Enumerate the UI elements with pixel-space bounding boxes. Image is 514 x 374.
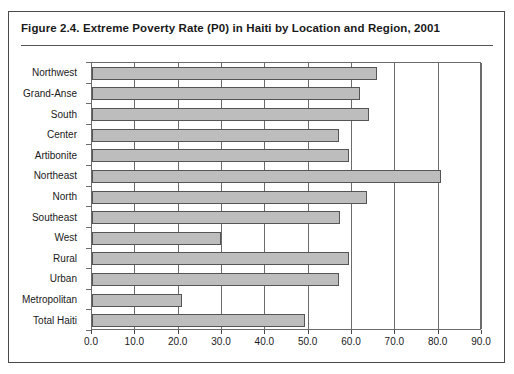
bar-row [92, 67, 482, 80]
bar-grand-anse [92, 87, 360, 100]
bar-row [92, 87, 482, 100]
x-axis-label-10-0: 10.0 [125, 336, 144, 347]
bar-metropolitan [92, 294, 182, 307]
y-axis-label-grand-anse: Grand-Anse [23, 87, 77, 98]
x-axis-tick [351, 330, 352, 334]
bar-row [92, 191, 482, 204]
y-axis-labels: NorthwestGrand-AnseSouthCenterArtibonite… [0, 62, 85, 330]
bar-northeast [92, 170, 441, 183]
x-axis-label-40-0: 40.0 [255, 336, 274, 347]
x-axis-tick [394, 330, 395, 334]
bar-row [92, 170, 482, 183]
y-axis-label-south: South [51, 108, 77, 119]
bar-total-haiti [92, 314, 305, 327]
bar-row [92, 314, 482, 327]
x-axis-tick [438, 330, 439, 334]
bar-row [92, 108, 482, 121]
y-axis-label-west: West [54, 232, 77, 243]
figure-title: Figure 2.4. Extreme Poverty Rate (P0) in… [21, 22, 491, 34]
y-axis-label-total-haiti: Total Haiti [33, 314, 77, 325]
y-axis-label-rural: Rural [53, 252, 77, 263]
bar-southeast [92, 211, 340, 224]
bar-row [92, 273, 482, 286]
bar-northwest [92, 67, 377, 80]
bar-row [92, 149, 482, 162]
bar-rural [92, 252, 349, 265]
x-axis-label-70-0: 70.0 [385, 336, 404, 347]
bar-row [92, 232, 482, 245]
y-axis-label-north: North [53, 191, 77, 202]
x-axis-tick [308, 330, 309, 334]
x-axis-label-0-0: 0.0 [84, 336, 98, 347]
y-axis-label-center: Center [47, 129, 77, 140]
x-axis-tick [134, 330, 135, 334]
bar-center [92, 129, 339, 142]
bar-row [92, 129, 482, 142]
bar-west [92, 232, 221, 245]
y-axis-label-urban: Urban [50, 273, 77, 284]
x-axis-tick [91, 330, 92, 334]
x-axis-tick [221, 330, 222, 334]
y-axis-label-northeast: Northeast [34, 170, 77, 181]
bars-layer [92, 63, 480, 329]
bar-row [92, 294, 482, 307]
plot-area [91, 62, 481, 330]
x-axis-label-50-0: 50.0 [298, 336, 317, 347]
x-axis-label-20-0: 20.0 [168, 336, 187, 347]
x-axis-tick [481, 330, 482, 334]
y-axis-label-metropolitan: Metropolitan [22, 294, 77, 305]
x-axis-label-80-0: 80.0 [428, 336, 447, 347]
x-axis-label-60-0: 60.0 [341, 336, 360, 347]
title-underline [21, 45, 493, 46]
y-axis-label-artibonite: Artibonite [35, 149, 77, 160]
bar-row [92, 211, 482, 224]
x-axis-labels: 0.010.020.030.040.050.060.070.080.090.0 [91, 336, 481, 352]
bar-north [92, 191, 367, 204]
figure-root: Figure 2.4. Extreme Poverty Rate (P0) in… [0, 0, 514, 374]
x-axis-tick [264, 330, 265, 334]
bar-south [92, 108, 369, 121]
x-axis-label-90-0: 90.0 [471, 336, 490, 347]
x-axis-ticks [91, 330, 481, 335]
bar-row [92, 252, 482, 265]
x-axis-tick [178, 330, 179, 334]
y-axis-label-southeast: Southeast [32, 211, 77, 222]
y-axis-label-northwest: Northwest [32, 67, 77, 78]
x-axis-label-30-0: 30.0 [211, 336, 230, 347]
bar-urban [92, 273, 339, 286]
bar-artibonite [92, 149, 349, 162]
